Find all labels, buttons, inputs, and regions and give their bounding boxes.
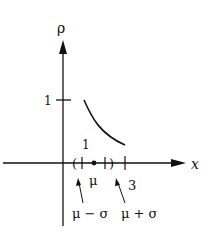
right-pointer-arrow-icon — [115, 178, 120, 186]
y-axis-arrow-icon — [59, 40, 67, 54]
right-bound-label: μ + σ — [121, 206, 158, 221]
y-tick-label: 1 — [44, 94, 52, 108]
x-axis-label: x — [191, 156, 199, 172]
left-bound-pointer — [79, 183, 83, 203]
mean-point — [92, 161, 97, 166]
left-paren: ( — [72, 156, 77, 171]
density-curve — [84, 100, 125, 145]
density-diagram: ρ x 1 ( 1 μ ) 3 μ − σ μ + σ — [0, 0, 219, 242]
right-bound-pointer — [118, 183, 125, 203]
x-axis-arrow-icon — [171, 159, 186, 167]
y-axis-label: ρ — [57, 20, 65, 36]
x-tick-label-1: 1 — [82, 138, 90, 152]
right-paren: ) — [109, 156, 114, 171]
x-tick-label-3: 3 — [128, 178, 136, 193]
mean-label: μ — [89, 173, 97, 188]
left-pointer-arrow-icon — [76, 178, 81, 186]
left-bound-label: μ − σ — [72, 206, 109, 221]
